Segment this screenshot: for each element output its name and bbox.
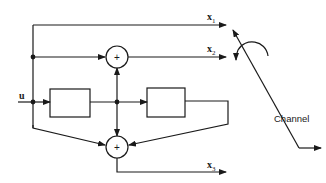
output-label-x1: x1 <box>207 12 216 25</box>
delay-block-1 <box>50 89 90 117</box>
block-diagram: + + <box>0 0 326 183</box>
output-label-x2: x2 <box>207 44 216 57</box>
delay-block-2 <box>147 88 185 117</box>
junction-dot <box>31 55 36 60</box>
output-label-x3: x3 <box>207 160 216 173</box>
trunk-to-bottom-adder <box>33 125 105 145</box>
junction-dot <box>31 100 36 105</box>
adder-bottom-plus: + <box>114 142 120 153</box>
channel-label: Channel <box>274 113 309 124</box>
junction-dot <box>115 100 120 105</box>
delay-2-feedback-path <box>129 101 228 145</box>
input-label-u: u <box>19 91 25 101</box>
channel-switch-arm <box>233 30 299 148</box>
adder-top-plus: + <box>114 52 120 63</box>
